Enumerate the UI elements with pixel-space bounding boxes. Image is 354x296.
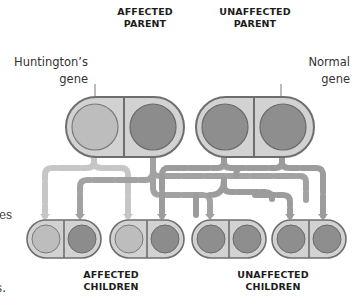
unaffected-parent-chromosome-pair — [196, 97, 314, 157]
normal-allele — [260, 104, 306, 150]
huntington-allele — [72, 104, 118, 150]
huntington-allele — [32, 225, 60, 253]
normal-allele — [151, 225, 179, 253]
unaffected-child-2-chromosome-pair — [272, 220, 346, 258]
unaffected-allele-arrows — [162, 157, 323, 216]
huntington-allele-arrows — [45, 157, 128, 216]
inheritance-diagram — [0, 0, 354, 296]
normal-allele — [277, 225, 305, 253]
affected-child-2-chromosome-pair — [110, 220, 184, 258]
unaffected-child-1-chromosome-pair — [192, 220, 266, 258]
normal-allele — [233, 225, 261, 253]
normal-allele — [197, 225, 225, 253]
normal-allele — [313, 225, 341, 253]
normal-allele — [68, 225, 96, 253]
affected-child-1-chromosome-pair — [27, 220, 101, 258]
affected-parent-chromosome-pair — [66, 97, 184, 157]
normal-allele — [202, 104, 248, 150]
normal-allele — [130, 104, 176, 150]
huntington-allele — [115, 225, 143, 253]
arrow-heads — [40, 214, 328, 220]
